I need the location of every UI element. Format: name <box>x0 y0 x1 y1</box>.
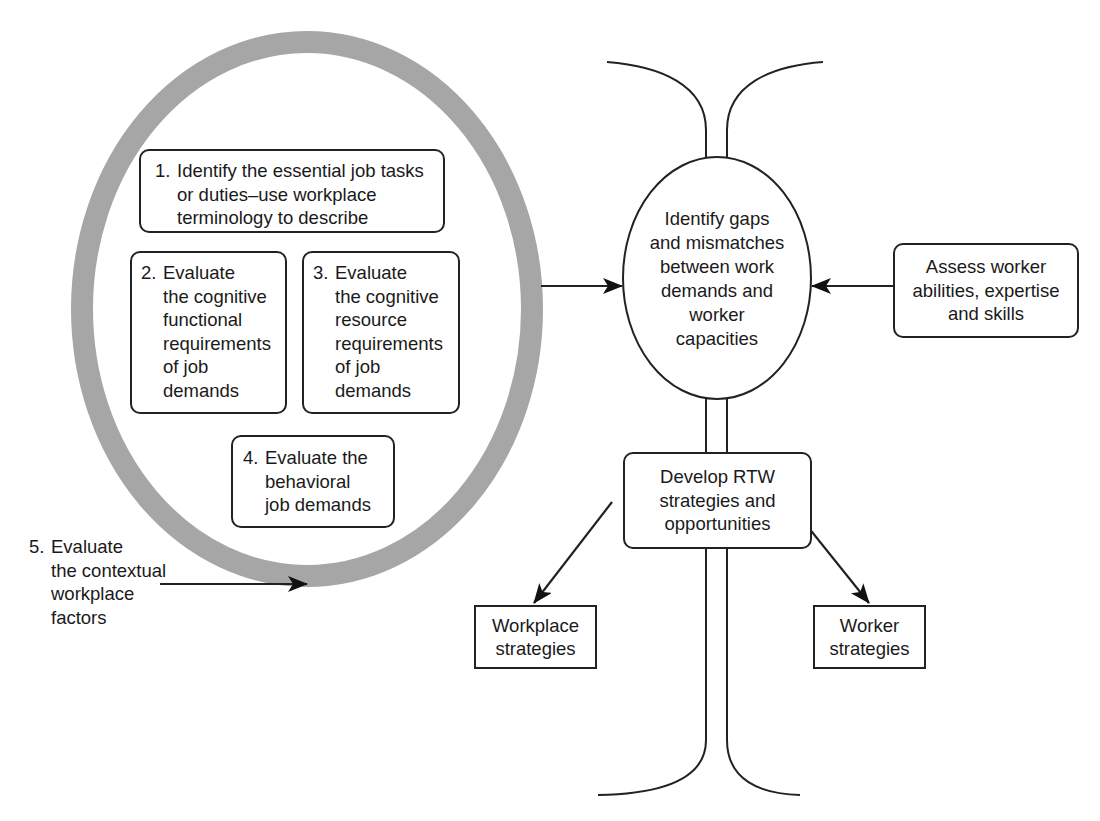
step-2-line: demands <box>163 379 271 403</box>
step-2-line: the cognitive <box>163 285 271 309</box>
worker-strategies-box: Worker strategies <box>813 605 926 669</box>
gap-node-line: demands and <box>623 279 811 303</box>
assess-line: abilities, expertise <box>895 279 1077 303</box>
step-1-box: 1. Identify the essential job tasks or d… <box>139 149 445 233</box>
step-4-line: Evaluate the <box>265 446 371 470</box>
tube-top-left <box>607 62 706 157</box>
rtw-line: opportunities <box>625 512 810 536</box>
assess-line: Assess worker <box>895 255 1077 279</box>
gap-node-line: worker <box>623 303 811 327</box>
step-5-line: factors <box>51 606 166 630</box>
rtw-line: Develop RTW <box>625 465 810 489</box>
workplace-line: Workplace <box>476 614 595 638</box>
tube-top-right <box>727 62 823 157</box>
tube-bottom-left <box>598 548 706 795</box>
step-2-line: requirements <box>163 332 271 356</box>
step-1-number: 1. <box>155 159 177 230</box>
worker-line: strategies <box>815 637 924 661</box>
assess-worker-box: Assess worker abilities, expertise and s… <box>893 243 1079 338</box>
step-2-line: Evaluate <box>163 261 271 285</box>
step-3-number: 3. <box>313 261 335 402</box>
step-2-box: 2. Evaluate the cognitive functional req… <box>130 251 287 414</box>
tube-bottom-right <box>727 548 800 795</box>
step-1-line: or duties–use workplace <box>177 183 424 207</box>
step-3-line: requirements <box>335 332 443 356</box>
gap-node-line: Identify gaps <box>623 207 811 231</box>
step-5-label: 5. Evaluate the contextual workplace fac… <box>29 535 166 629</box>
step-2-number: 2. <box>141 261 163 402</box>
step-5-line: Evaluate <box>51 535 166 559</box>
step-3-line: resource <box>335 308 443 332</box>
gap-node: Identify gaps and mismatches between wor… <box>623 207 811 351</box>
step-1-line: terminology to describe <box>177 206 424 230</box>
step-5-line: the contextual <box>51 559 166 583</box>
assess-line: and skills <box>895 302 1077 326</box>
rtw-strategies-box: Develop RTW strategies and opportunities <box>623 452 812 549</box>
step-3-line: Evaluate <box>335 261 443 285</box>
workplace-strategies-box: Workplace strategies <box>474 605 597 669</box>
step-5-number: 5. <box>29 535 51 629</box>
step-4-line: job demands <box>265 493 371 517</box>
step-3-line: the cognitive <box>335 285 443 309</box>
rtw-line: strategies and <box>625 489 810 513</box>
gap-node-line: and mismatches <box>623 231 811 255</box>
step-2-line: of job <box>163 355 271 379</box>
step-3-line: of job <box>335 355 443 379</box>
step-5-line: workplace <box>51 582 166 606</box>
step-4-line: behavioral <box>265 470 371 494</box>
arrow-rtw-to-workplace <box>534 502 612 603</box>
step-3-box: 3. Evaluate the cognitive resource requi… <box>302 251 460 414</box>
step-4-box: 4. Evaluate the behavioral job demands <box>231 435 395 528</box>
step-1-line: Identify the essential job tasks <box>177 159 424 183</box>
gap-node-line: capacities <box>623 327 811 351</box>
worker-line: Worker <box>815 614 924 638</box>
workplace-line: strategies <box>476 637 595 661</box>
step-4-number: 4. <box>243 446 265 517</box>
diagram-canvas: 1. Identify the essential job tasks or d… <box>0 0 1100 821</box>
step-3-line: demands <box>335 379 443 403</box>
gap-node-line: between work <box>623 255 811 279</box>
step-2-line: functional <box>163 308 271 332</box>
